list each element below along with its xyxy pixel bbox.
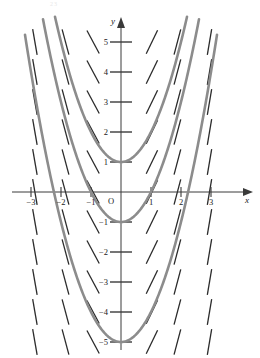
slope-field-segment: [207, 209, 211, 235]
slope-field-segment: [87, 91, 99, 114]
slope-field-segment: [87, 241, 99, 264]
x-axis-tick-label: −2: [56, 197, 65, 207]
slope-field-segment: [33, 269, 37, 295]
x-axis-tick-label: 2: [179, 197, 183, 207]
slope-field-segment: [207, 29, 211, 55]
slope-field-segment: [87, 151, 99, 174]
y-axis-tick-label: 1: [104, 157, 108, 167]
slope-field-segment: [207, 269, 211, 295]
x-axis-tick-label: −1: [86, 197, 95, 207]
slope-field-segment: [146, 90, 157, 113]
y-axis-tick-label: −2: [99, 247, 108, 257]
slope-field-segment: [62, 149, 69, 174]
slope-field-segment: [62, 329, 69, 354]
slope-field-segment: [62, 299, 69, 324]
slope-field-segment: [207, 149, 211, 175]
slope-field-segment: [62, 269, 69, 294]
y-axis-tick-label: 2: [104, 127, 108, 137]
slope-field-segment: [207, 239, 211, 265]
slope-field-segment: [146, 60, 157, 83]
x-axis-tick-label: 1: [149, 197, 153, 207]
y-axis-tick-label: −1: [99, 217, 108, 227]
y-axis-tick-label: −3: [99, 277, 108, 287]
slope-field-segment: [33, 239, 37, 265]
y-axis-arrowhead: [117, 17, 125, 28]
slope-field-segment: [146, 30, 157, 53]
slope-field-segment: [174, 149, 181, 174]
slope-field-segment: [146, 240, 157, 263]
slope-field-segment: [146, 270, 157, 293]
slope-field-segment: [146, 330, 157, 353]
slope-field-segment: [207, 119, 211, 145]
x-axis-tick-label: −3: [26, 197, 35, 207]
y-axis-tick-label: 5: [104, 37, 108, 47]
origin-label: O: [108, 196, 114, 206]
slope-field-segment: [87, 271, 99, 294]
slope-field-segment: [207, 329, 211, 355]
slope-field-segment: [33, 29, 37, 55]
slope-field-segment: [207, 299, 211, 325]
slope-field-segment: [146, 150, 157, 173]
y-axis-label: y: [110, 16, 115, 26]
plot-canvas: 54321−1−2−3−4−5−3−2−1123 x y O: [0, 0, 260, 358]
slope-field-segment: [87, 301, 99, 324]
y-axis-tick-label: 4: [104, 67, 109, 77]
axes-group: [12, 17, 253, 350]
slope-field-segment: [33, 329, 37, 355]
y-axis-tick-label: −4: [99, 307, 109, 317]
slope-field-segment: [87, 211, 99, 234]
slope-field-segment: [33, 209, 37, 235]
slope-field-segment: [87, 331, 99, 354]
slope-field-segment: [146, 210, 157, 233]
slope-field-segment: [87, 121, 99, 144]
slope-field-figure: 23 54321−1−2−3−4−5−3−2−1123 x y O: [0, 0, 260, 358]
slope-field-segment: [87, 31, 99, 54]
slope-field-segment: [174, 299, 181, 324]
slope-field-segment: [87, 61, 99, 84]
x-axis-tick-label: 3: [209, 197, 213, 207]
slope-field-segment: [174, 269, 181, 294]
slope-field-segment: [174, 329, 181, 354]
slope-field-segment: [33, 149, 37, 175]
slope-field-segment: [33, 299, 37, 325]
y-axis-tick-label: −5: [99, 337, 108, 347]
y-axis-tick-label: 3: [104, 97, 108, 107]
slope-field-segment: [33, 119, 37, 145]
x-axis-label: x: [244, 195, 249, 205]
